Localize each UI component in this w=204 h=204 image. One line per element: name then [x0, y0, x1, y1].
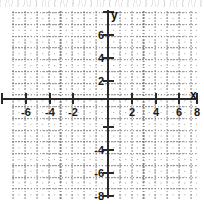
x-tick-label: 4 [153, 107, 159, 118]
y-tick-label: -6 [94, 168, 104, 179]
x-tick-label: 8 [194, 107, 200, 118]
x-tick-label: -4 [45, 107, 55, 118]
x-tick-label: -6 [21, 107, 31, 118]
y-tick-mark [103, 195, 114, 197]
x-tick-mark [155, 93, 157, 104]
x-tick-mark [25, 93, 27, 104]
y-tick-label: 4 [98, 53, 104, 64]
x-tick-mark [178, 93, 180, 104]
coordinate-plane-figure: -6-4-22468 642-4-6-8 x y [0, 0, 204, 204]
y-tick-mark [103, 126, 114, 128]
y-tick-mark [103, 57, 114, 59]
top-edge-artifact [0, 0, 204, 7]
x-tick-label: -2 [68, 107, 78, 118]
x-axis-line [2, 98, 198, 100]
y-tick-label: 6 [98, 30, 104, 41]
y-tick-mark [103, 34, 114, 36]
x-tick-mark [131, 93, 133, 104]
x-tick-mark [72, 93, 74, 104]
x-tick-label: 6 [176, 107, 182, 118]
y-tick-mark [103, 149, 114, 151]
y-tick-mark [103, 98, 114, 100]
y-axis-line [107, 10, 109, 198]
x-tick-mark [49, 93, 51, 104]
y-tick-mark [103, 172, 114, 174]
y-axis-label: y [111, 9, 118, 21]
x-tick-label: 2 [129, 107, 135, 118]
plot-area [12, 11, 197, 199]
y-tick-label: 2 [98, 76, 104, 87]
y-tick-mark [103, 80, 114, 82]
y-tick-label: -4 [94, 145, 104, 156]
x-tick-mark [1, 93, 3, 104]
y-tick-label: -8 [94, 191, 104, 202]
major-gridlines-horizontal [12, 11, 197, 199]
x-axis-label: x [190, 89, 197, 101]
